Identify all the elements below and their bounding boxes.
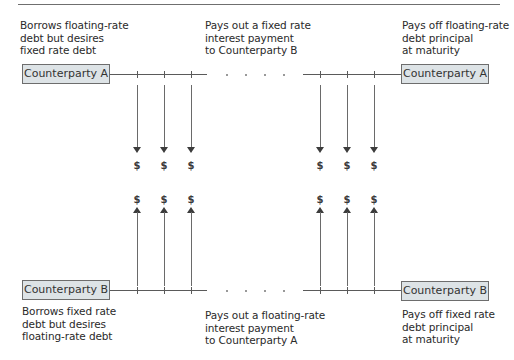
down-arrow-shaft bbox=[164, 85, 165, 148]
counterparty-a-start-description: Borrows floating-rate debt but desires f… bbox=[20, 19, 129, 57]
ellipsis-dot bbox=[264, 74, 266, 76]
bottom-tick bbox=[164, 287, 165, 294]
up-arrow-shaft bbox=[191, 212, 192, 286]
ellipsis-dot bbox=[245, 290, 247, 292]
ellipsis-dot bbox=[283, 74, 285, 76]
dollar-icon: $ bbox=[185, 160, 197, 172]
bottom-tick bbox=[191, 287, 192, 294]
dollar-icon: $ bbox=[341, 194, 353, 206]
dollar-icon: $ bbox=[131, 160, 143, 172]
counterparty-a-end-box: Counterparty A bbox=[401, 64, 489, 84]
counterparty-b-end-box: Counterparty B bbox=[401, 281, 489, 301]
bottom-tick bbox=[137, 287, 138, 294]
top-tick bbox=[164, 71, 165, 78]
counterparty-b-maturity-description: Pays off fixed rate debt principal at ma… bbox=[402, 308, 495, 346]
ellipsis-dot bbox=[245, 74, 247, 76]
ellipsis-dot bbox=[226, 290, 228, 292]
down-arrow-icon bbox=[160, 147, 168, 153]
dollar-icon: $ bbox=[314, 160, 326, 172]
up-arrow-shaft bbox=[164, 212, 165, 286]
down-arrow-icon bbox=[343, 147, 351, 153]
bottom-timeline-right-segment bbox=[303, 290, 401, 291]
dollar-icon: $ bbox=[341, 160, 353, 172]
ellipsis-dot bbox=[264, 290, 266, 292]
counterparty-a-maturity-description: Pays off floating-rate debt principal at… bbox=[402, 19, 509, 57]
top-tick bbox=[191, 71, 192, 78]
bottom-tick bbox=[347, 287, 348, 294]
dollar-icon: $ bbox=[158, 160, 170, 172]
bottom-tick bbox=[320, 287, 321, 294]
counterparty-b-start-description: Borrows fixed rate debt but desires floa… bbox=[22, 305, 116, 343]
down-arrow-shaft bbox=[137, 85, 138, 148]
top-tick bbox=[347, 71, 348, 78]
down-arrow-icon bbox=[187, 147, 195, 153]
up-arrow-shaft bbox=[347, 212, 348, 286]
up-arrow-shaft bbox=[137, 212, 138, 286]
dollar-icon: $ bbox=[131, 194, 143, 206]
dollar-icon: $ bbox=[368, 160, 380, 172]
down-arrow-shaft bbox=[347, 85, 348, 148]
counterparty-a-start-box: Counterparty A bbox=[22, 64, 110, 84]
dollar-icon: $ bbox=[368, 194, 380, 206]
top-tick bbox=[320, 71, 321, 78]
down-arrow-icon bbox=[133, 147, 141, 153]
counterparty-b-start-box: Counterparty B bbox=[22, 280, 110, 300]
counterparty-a-payment-description: Pays out a fixed rate interest payment t… bbox=[205, 19, 311, 57]
down-arrow-icon bbox=[370, 147, 378, 153]
top-tick bbox=[137, 71, 138, 78]
dollar-icon: $ bbox=[158, 194, 170, 206]
top-timeline-left-segment bbox=[110, 74, 207, 75]
top-timeline-right-segment bbox=[303, 74, 401, 75]
ellipsis-dot bbox=[283, 290, 285, 292]
up-arrow-shaft bbox=[374, 212, 375, 286]
ellipsis-dot bbox=[226, 74, 228, 76]
down-arrow-shaft bbox=[191, 85, 192, 148]
top-tick bbox=[374, 71, 375, 78]
down-arrow-shaft bbox=[374, 85, 375, 148]
up-arrow-shaft bbox=[320, 212, 321, 286]
top-rule bbox=[18, 4, 500, 5]
dollar-icon: $ bbox=[185, 194, 197, 206]
dollar-icon: $ bbox=[314, 194, 326, 206]
bottom-timeline-left-segment bbox=[110, 290, 207, 291]
counterparty-b-payment-description: Pays out a floating-rate interest paymen… bbox=[205, 309, 325, 347]
down-arrow-icon bbox=[316, 147, 324, 153]
down-arrow-shaft bbox=[320, 85, 321, 148]
bottom-tick bbox=[374, 287, 375, 294]
